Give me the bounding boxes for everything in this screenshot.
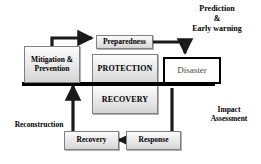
node-disaster: Disaster — [163, 57, 221, 84]
node-mitigation-prevention-label: Mitigation & Prevention — [25, 56, 79, 73]
node-protection: PROTECTION — [92, 54, 158, 84]
node-protection-label: PROTECTION — [98, 64, 153, 73]
node-response: Response — [126, 131, 181, 150]
diagram-canvas: Prediction & Early warning Impact Assess… — [0, 0, 261, 164]
node-recovery-center-label: RECOVERY — [102, 95, 148, 104]
node-recovery-center: RECOVERY — [92, 85, 158, 114]
node-mitigation-prevention: Mitigation & Prevention — [24, 46, 80, 83]
node-recovery-label: Recovery — [77, 136, 107, 145]
node-response-label: Response — [138, 136, 168, 145]
node-recovery: Recovery — [64, 131, 119, 150]
node-disaster-label: Disaster — [177, 65, 207, 75]
arrow-preparedness-to-disaster — [153, 42, 185, 53]
arrow-mitigation-to-preparedness — [52, 38, 92, 46]
node-preparedness: Preparedness — [96, 35, 153, 49]
node-preparedness-label: Preparedness — [103, 38, 146, 47]
